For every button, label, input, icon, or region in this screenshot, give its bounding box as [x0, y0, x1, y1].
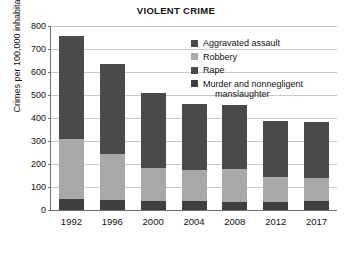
y-tick-mark [48, 187, 51, 188]
bar-1996[interactable]: 1996 [100, 64, 125, 211]
chart-legend: Aggravated assaultRobberyRapeMurder and … [191, 38, 303, 102]
y-tick-mark [48, 26, 51, 27]
bar-segment [141, 168, 166, 201]
bar-segment [141, 93, 166, 168]
legend-label: Robbery [203, 52, 237, 62]
legend-swatch-icon [191, 53, 198, 60]
x-tick-label: 1996 [100, 216, 125, 227]
legend-label-line2: manslaughter [203, 89, 303, 99]
bar-2008[interactable]: 2008 [222, 105, 247, 210]
legend-swatch-icon [191, 67, 198, 74]
legend-swatch-icon [191, 80, 198, 87]
bar-segment [141, 201, 166, 210]
legend-label: Murder and nonnegligentmanslaughter [203, 79, 303, 99]
bar-segment [222, 202, 247, 211]
legend-item[interactable]: Murder and nonnegligentmanslaughter [191, 79, 303, 99]
y-tick-label: 400 [31, 114, 46, 123]
x-tick-label: 2008 [222, 216, 247, 227]
bar-segment [59, 199, 84, 211]
bar-2012[interactable]: 2012 [263, 121, 288, 210]
bar-segment [263, 177, 288, 203]
y-tick-mark [48, 72, 51, 73]
bar-segment [59, 36, 84, 139]
y-tick-mark [48, 49, 51, 50]
bar-segment [100, 64, 125, 154]
bar-1992[interactable]: 1992 [59, 36, 84, 210]
y-tick-mark [48, 95, 51, 96]
bar-segment [263, 121, 288, 177]
y-tick-label: 600 [31, 68, 46, 77]
bar-segment [182, 201, 207, 210]
bar-2017[interactable]: 2017 [304, 122, 329, 210]
y-tick-label: 200 [31, 160, 46, 169]
gridline [51, 26, 337, 27]
x-tick-label: 2012 [263, 216, 288, 227]
bar-segment [263, 202, 288, 210]
bar-2000[interactable]: 2000 [141, 93, 166, 210]
legend-item[interactable]: Rape [191, 65, 303, 75]
y-axis-title: Crimes per 100,000 inhabitants [12, 0, 22, 135]
y-tick-label: 500 [31, 91, 46, 100]
y-tick-mark [48, 210, 51, 211]
y-tick-mark [48, 141, 51, 142]
x-tick-label: 2000 [141, 216, 166, 227]
y-tick-mark [48, 118, 51, 119]
chart-title: VIOLENT CRIME [0, 5, 352, 16]
x-tick-label: 2017 [304, 216, 329, 227]
bar-segment [182, 104, 207, 171]
x-tick-label: 1992 [59, 216, 84, 227]
legend-label: Aggravated assault [203, 38, 280, 48]
chart-figure: VIOLENT CRIME Crimes per 100,000 inhabit… [0, 0, 352, 254]
y-tick-label: 100 [31, 183, 46, 192]
bar-segment [100, 154, 125, 201]
y-tick-label: 300 [31, 137, 46, 146]
bar-segment [182, 170, 207, 201]
legend-item[interactable]: Robbery [191, 52, 303, 62]
legend-label: Rape [203, 65, 225, 75]
y-tick-mark [48, 164, 51, 165]
legend-item[interactable]: Aggravated assault [191, 38, 303, 48]
legend-swatch-icon [191, 40, 198, 47]
bar-segment [59, 139, 84, 199]
bar-segment [304, 178, 329, 201]
bar-segment [222, 105, 247, 169]
y-tick-label: 800 [31, 22, 46, 31]
bar-segment [304, 201, 329, 210]
y-tick-label: 0 [41, 206, 46, 215]
y-tick-label: 700 [31, 45, 46, 54]
x-tick-label: 2004 [182, 216, 207, 227]
bar-2004[interactable]: 2004 [182, 104, 207, 210]
bar-segment [222, 169, 247, 202]
bar-segment [100, 200, 125, 210]
x-axis-line [50, 210, 337, 211]
bar-segment [304, 122, 329, 178]
